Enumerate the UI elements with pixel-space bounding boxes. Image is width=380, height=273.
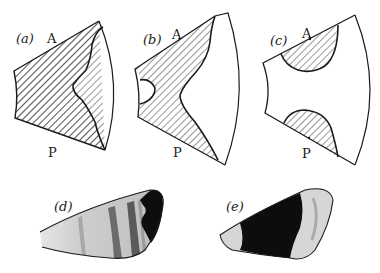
panel-b-label: (b) — [143, 33, 161, 46]
panel-c-anterior-label: A — [302, 27, 311, 40]
panel-b-posterior-label: P — [173, 146, 182, 159]
panel-b-anterior-label: A — [172, 28, 181, 41]
panel-a-anterior-label: A — [47, 32, 56, 45]
panel-a-label: (a) — [16, 32, 34, 45]
panel-a-posterior-label: P — [48, 146, 57, 159]
panel-d-label: (d) — [54, 200, 72, 213]
panel-e-label: (e) — [226, 200, 244, 213]
figure: (a) A P (b) A P (c) A P (d) (e) — [0, 0, 380, 273]
panel-c-posterior-label: P — [302, 147, 311, 160]
figure-drawing — [0, 0, 380, 273]
panel-c-label: (c) — [270, 34, 287, 47]
